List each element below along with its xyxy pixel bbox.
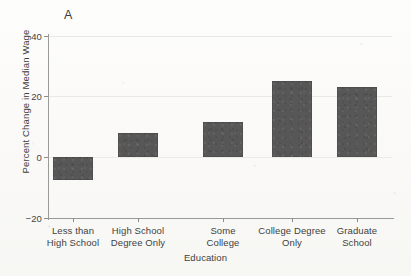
bar <box>53 157 93 180</box>
bar-chart-figure: A Percent Change in Median Wage 40 20 0 … <box>0 0 411 276</box>
y-tick-label-neg20: −20 <box>2 213 42 224</box>
x-category-label-line: High School <box>92 225 184 237</box>
x-category-label-line: Degree Only <box>92 237 184 249</box>
y-tick-mark-40 <box>44 36 48 37</box>
bar <box>337 87 377 157</box>
x-axis-spine <box>48 218 394 219</box>
y-tick-label-20: 20 <box>2 91 42 102</box>
y-tick-mark-20 <box>44 96 48 97</box>
x-tick-mark <box>138 218 139 222</box>
bar <box>272 81 312 157</box>
y-tick-label-0: 0 <box>2 152 42 163</box>
x-tick-mark <box>292 218 293 222</box>
y-tick-mark-0 <box>44 157 48 158</box>
y-tick-mark-neg20 <box>44 218 48 219</box>
bar <box>203 122 243 157</box>
bar-texture <box>272 81 312 157</box>
gridline-40 <box>48 36 392 37</box>
x-tick-mark <box>357 218 358 222</box>
bar-texture <box>118 133 158 157</box>
bar <box>118 133 158 157</box>
x-category-label-line: Graduate <box>311 225 403 237</box>
x-category-label-line: School <box>311 237 403 249</box>
panel-label-a: A <box>64 8 73 22</box>
x-tick-mark <box>223 218 224 222</box>
zero-reference-line <box>48 157 392 158</box>
bar-texture <box>53 157 93 180</box>
bar-texture <box>203 122 243 157</box>
x-category-label: High SchoolDegree Only <box>92 225 184 248</box>
x-category-label: GraduateSchool <box>311 225 403 248</box>
y-tick-label-40: 40 <box>2 31 42 42</box>
x-axis-title: Education <box>0 252 411 263</box>
bar-texture <box>337 87 377 157</box>
y-axis-spine <box>48 34 49 220</box>
x-tick-mark <box>73 218 74 222</box>
